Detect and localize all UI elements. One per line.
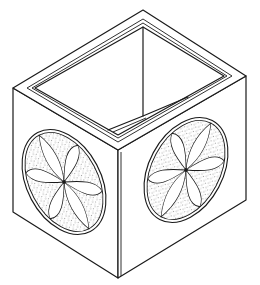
box-illustration [0, 0, 260, 285]
